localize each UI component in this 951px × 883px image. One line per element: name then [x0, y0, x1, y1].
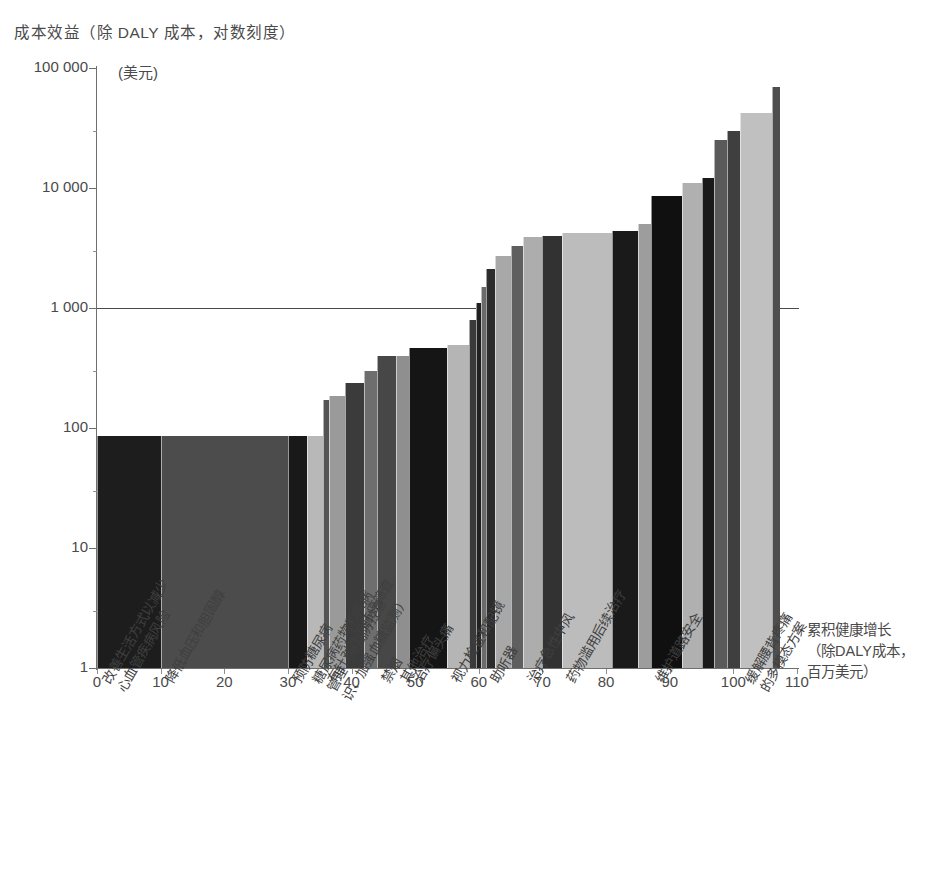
bar — [702, 178, 715, 668]
y-tick-label: 10 000 — [2, 178, 88, 195]
y-tick-mark — [89, 428, 97, 429]
bar — [161, 436, 288, 668]
category-labels: 改善生活方式以减少 心血管疾病风险降低血压和胆固醇预防糖尿病糖尿病药物和疾病 管… — [0, 678, 951, 883]
bar — [562, 233, 613, 668]
bar-series — [97, 60, 798, 668]
bar — [542, 236, 561, 668]
bar — [772, 87, 780, 668]
y-tick-mark — [89, 68, 97, 69]
y-tick-label: 100 — [2, 418, 88, 435]
bar — [409, 348, 447, 668]
y-tick-mark — [89, 548, 97, 549]
bar — [682, 183, 701, 668]
bar — [288, 436, 307, 668]
bar — [740, 113, 772, 668]
bar — [523, 237, 542, 668]
y-tick-mark — [89, 668, 97, 669]
x-axis-line — [96, 668, 799, 669]
cost-effectiveness-chart: 成本效益（除 DALY 成本，对数刻度） (美元) 100 00010 0001… — [0, 0, 951, 883]
y-tick-label: 100 000 — [2, 58, 88, 75]
y-tick-label: 10 — [2, 538, 88, 555]
bar — [714, 140, 727, 668]
bar — [651, 196, 683, 668]
y-tick-mark — [89, 308, 97, 309]
bar — [638, 224, 651, 668]
bar — [511, 246, 524, 668]
bar — [727, 131, 740, 668]
bar — [447, 345, 469, 668]
x-axis-title: 累积健康增长 （除DALY成本， 百万美元） — [807, 620, 947, 683]
y-tick-label: 1 — [2, 658, 88, 675]
y-tick-label: 1 000 — [2, 298, 88, 315]
y-tick-mark — [89, 188, 97, 189]
